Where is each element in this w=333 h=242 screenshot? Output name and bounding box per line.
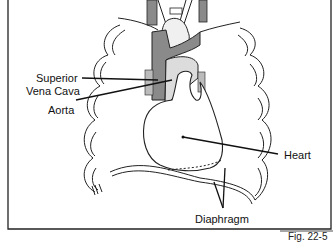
label-heart: Heart bbox=[284, 149, 311, 161]
label-aorta: Aorta bbox=[48, 104, 74, 116]
label-diaphragm: Diaphragm bbox=[195, 213, 249, 225]
left-lung-outline bbox=[84, 25, 125, 195]
label-superior-line1: Superior bbox=[36, 72, 78, 84]
figure-caption: Fig. 22-5 bbox=[288, 231, 327, 242]
right-lung-outline bbox=[238, 28, 271, 200]
label-superior-line2: Vena Cava bbox=[26, 85, 80, 97]
anatomy-diagram bbox=[0, 0, 333, 242]
diaphragm-line bbox=[110, 166, 255, 204]
